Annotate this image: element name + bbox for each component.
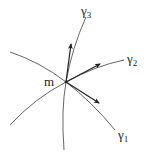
- gamma2-label: γ2: [126, 51, 137, 68]
- curves-tangent-vectors-diagram: m γ3 γ2 γ1: [0, 0, 144, 156]
- point-m: [65, 81, 68, 84]
- point-m-label: m: [44, 74, 54, 89]
- tangent-vector-gamma2: [66, 64, 100, 82]
- tangent-vector-gamma1: [66, 82, 99, 103]
- curve-gamma2: [10, 60, 124, 125]
- gamma3-label: γ3: [80, 3, 92, 20]
- curve-gamma3: [63, 17, 86, 150]
- gamma1-label: γ1: [117, 127, 128, 144]
